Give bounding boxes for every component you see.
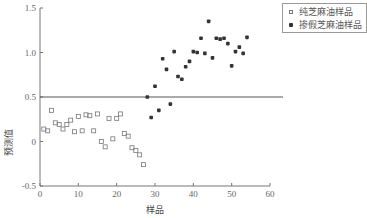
y-tick-label: -0.5 xyxy=(22,181,37,191)
data-point xyxy=(172,50,176,54)
data-point xyxy=(76,115,80,119)
data-point xyxy=(50,108,54,112)
data-point xyxy=(46,129,50,133)
y-tick-label: 0.5 xyxy=(25,92,37,102)
x-tick-label: 20 xyxy=(112,189,122,199)
data-point xyxy=(99,140,103,144)
data-points xyxy=(42,20,249,167)
data-point xyxy=(142,163,146,167)
filled-star-marker-icon xyxy=(286,23,296,27)
data-point xyxy=(241,52,245,56)
legend-label: 掺假芝麻油样品 xyxy=(299,18,362,31)
data-point xyxy=(84,113,88,117)
data-point xyxy=(234,50,238,54)
data-point xyxy=(61,127,65,131)
data-point xyxy=(195,51,199,55)
data-point xyxy=(111,137,115,141)
y-tick-label: 1.5 xyxy=(25,3,37,13)
data-point xyxy=(245,36,249,40)
y-tick-label: 0 xyxy=(32,137,37,147)
legend-item-pure: 纯芝麻油样品 xyxy=(286,5,362,18)
data-point xyxy=(157,109,161,113)
data-point xyxy=(115,116,119,120)
data-point xyxy=(57,123,61,127)
x-tick-label: 30 xyxy=(151,189,161,199)
data-point xyxy=(149,116,153,120)
data-point xyxy=(122,131,126,135)
data-point xyxy=(103,145,107,149)
data-point xyxy=(42,127,46,131)
data-point xyxy=(130,146,134,150)
data-point xyxy=(192,50,196,54)
data-point xyxy=(161,57,165,61)
data-point xyxy=(203,52,207,56)
data-point xyxy=(180,77,184,81)
data-point xyxy=(211,56,215,60)
data-point xyxy=(222,36,226,40)
data-point xyxy=(207,20,211,24)
x-tick-label: 10 xyxy=(74,189,84,199)
data-point xyxy=(169,102,173,106)
data-point xyxy=(199,36,203,40)
x-tick-label: 50 xyxy=(227,189,237,199)
legend-item-adulterated: 掺假芝麻油样品 xyxy=(286,18,362,31)
data-point xyxy=(218,37,222,41)
data-point xyxy=(146,95,150,99)
data-point xyxy=(80,129,84,133)
data-point xyxy=(126,134,130,138)
open-square-marker-icon xyxy=(286,10,296,14)
data-point xyxy=(238,45,242,49)
axes: -0.500.51.01.50102030405060 xyxy=(22,3,275,199)
data-point xyxy=(73,130,77,134)
data-point xyxy=(134,148,138,152)
data-point xyxy=(69,118,73,122)
data-point xyxy=(65,123,69,127)
data-point xyxy=(92,129,96,133)
y-axis-title: 预测值 xyxy=(3,129,14,156)
data-point xyxy=(176,75,180,79)
data-point xyxy=(138,153,142,157)
x-tick-label: 60 xyxy=(266,189,276,199)
y-tick-label: 1.0 xyxy=(25,48,37,58)
data-point xyxy=(107,116,111,120)
data-point xyxy=(215,36,219,40)
data-point xyxy=(88,114,92,118)
x-tick-label: 0 xyxy=(38,189,43,199)
x-axis-title: 样品 xyxy=(146,204,164,215)
data-point xyxy=(230,64,234,68)
data-point xyxy=(119,112,123,116)
data-point xyxy=(226,42,230,46)
data-point xyxy=(96,112,100,116)
data-point xyxy=(184,65,188,69)
data-point xyxy=(53,121,57,125)
legend: 纯芝麻油样品 掺假芝麻油样品 xyxy=(282,3,367,33)
data-point xyxy=(153,85,157,89)
data-point xyxy=(188,60,192,64)
x-tick-label: 40 xyxy=(189,189,199,199)
legend-label: 纯芝麻油样品 xyxy=(299,5,353,18)
data-point xyxy=(165,68,169,72)
